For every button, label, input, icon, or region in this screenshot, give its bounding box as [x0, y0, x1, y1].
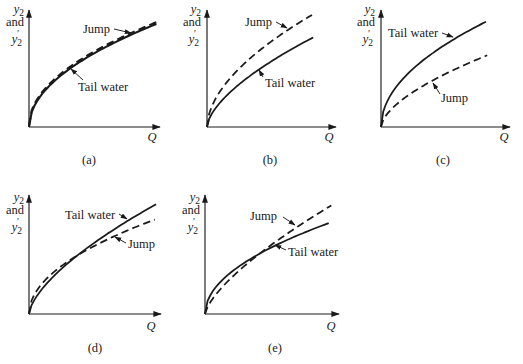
curve-label-tailwater: Tail water — [78, 80, 129, 94]
x-axis-label: Q — [499, 130, 508, 144]
jump-leader-arrow — [283, 217, 295, 225]
jump-leader-arrow — [114, 29, 131, 33]
jump-leader-arrow — [276, 22, 287, 28]
tailwater-curve — [205, 223, 329, 314]
jump-curve — [381, 55, 487, 127]
x-axis-label: Q — [324, 130, 333, 144]
y-axis-label-line2: and — [183, 15, 202, 29]
panel-caption: (a) — [82, 153, 96, 167]
panel-e: y2 and y2′ Q Jump Tail water (e) — [178, 174, 360, 364]
panel-d: y2 and y2′ Q Tail water Jump (d) — [0, 174, 182, 364]
tailwater-curve — [29, 24, 156, 127]
y-axis-label-line3: y2′ — [186, 217, 199, 236]
panel-b: y2 and y2′ Q Jump Tail water (b) — [175, 0, 350, 172]
panel-a: y2 and y2′ Q Jump Tail water (a) — [0, 0, 175, 172]
curve-label-jump: Jump — [128, 237, 155, 251]
jump-leader-arrow — [433, 83, 440, 94]
y-axis-label-line3: y2′ — [10, 217, 23, 236]
jump-leader-arrow — [115, 237, 126, 243]
curve-label-jump: Jump — [441, 91, 468, 105]
jump-curve — [29, 220, 155, 314]
panel-caption: (e) — [268, 341, 282, 355]
y-axis-label-line3: y2′ — [361, 29, 374, 48]
curve-label-jump: Jump — [245, 15, 272, 29]
x-axis-label: Q — [147, 130, 156, 144]
y-axis-label-line2: and — [6, 15, 25, 29]
tailwater-leader-arrow — [275, 245, 286, 250]
curve-label-tailwater: Tail water — [288, 245, 339, 259]
tailwater-leader-arrow — [119, 214, 127, 219]
curve-label-tailwater: Tail water — [65, 208, 116, 222]
jump-curve — [29, 22, 156, 125]
curve-label-jump: Jump — [250, 209, 277, 223]
x-axis-label: Q — [146, 319, 155, 333]
curve-label-tailwater: Tail water — [388, 26, 439, 40]
y-axis-label-line2: and — [182, 203, 201, 217]
panel-c: y2 and y2′ Q Tail water Jump (c) — [348, 0, 523, 172]
y-axis-label-line3: y2′ — [187, 29, 200, 48]
tailwater-leader-arrow — [442, 33, 453, 37]
tailwater-leader-arrow — [259, 70, 263, 77]
curve-label-tailwater: Tail water — [265, 76, 316, 90]
curve-label-jump: Jump — [83, 22, 110, 36]
x-axis-label: Q — [326, 319, 335, 333]
panel-caption: (d) — [88, 341, 103, 355]
y-axis-label-line2: and — [6, 203, 25, 217]
tailwater-leader-arrow — [71, 69, 83, 80]
panel-caption: (c) — [436, 153, 450, 167]
panel-caption: (b) — [263, 153, 278, 167]
y-axis-label-line2: and — [357, 15, 376, 29]
y-axis-label-line3: y2′ — [10, 29, 23, 48]
figure-canvas: y2 and y2′ Q Jump Tail water (a) y2 and … — [0, 0, 523, 364]
